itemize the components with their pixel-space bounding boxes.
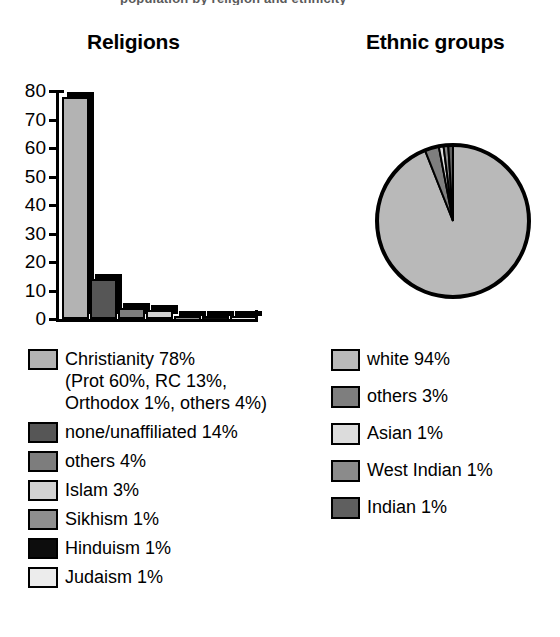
bar-others	[118, 308, 145, 319]
ethnic-legend-swatch-others	[331, 386, 360, 408]
religions-chart-title: Religions	[87, 30, 180, 54]
y-tick-60	[49, 147, 57, 150]
religions-legend-swatch-others	[28, 451, 58, 472]
religions-legend-item-sikhism[interactable]: Sikhism 1%	[28, 508, 286, 530]
pie-svg	[372, 140, 534, 302]
y-tick-label-20: 20	[0, 252, 46, 271]
ethnic-legend-item-asian[interactable]: Asian 1%	[331, 422, 541, 445]
ethnic-legend-swatch-west-indian	[331, 460, 360, 482]
bar-islam	[146, 310, 173, 319]
ethnic-legend-swatch-asian	[331, 423, 360, 445]
religions-legend-swatch-sikhism	[28, 509, 58, 530]
ethnic-legend-label-others: others 3%	[367, 385, 448, 407]
religions-legend-item-christianity[interactable]: Christianity 78% (Prot 60%, RC 13%, Orth…	[28, 348, 286, 414]
ethnic-legend-swatch-indian	[331, 497, 360, 519]
y-tick-20	[49, 261, 57, 264]
ethnic-legend-item-indian[interactable]: Indian 1%	[331, 496, 541, 519]
y-tick-label-10: 10	[0, 281, 46, 300]
ethnic-legend-item-others[interactable]: others 3%	[331, 385, 541, 408]
religions-legend-item-none-unaffiliated[interactable]: none/unaffiliated 14%	[28, 421, 286, 443]
religions-bar-chart: 01020304050607080	[0, 84, 280, 334]
y-tick-label-80: 80	[0, 81, 46, 100]
religions-legend-label-none-unaffiliated: none/unaffiliated 14%	[65, 421, 238, 443]
y-tick-label-60: 60	[0, 138, 46, 157]
religions-legend: Christianity 78% (Prot 60%, RC 13%, Orth…	[28, 348, 286, 595]
ethnic-legend-label-asian: Asian 1%	[367, 422, 443, 444]
religions-legend-item-judaism[interactable]: Judaism 1%	[28, 566, 286, 588]
y-axis-top-cap	[56, 90, 64, 93]
religions-legend-item-others[interactable]: others 4%	[28, 450, 286, 472]
y-tick-50	[49, 176, 57, 179]
y-tick-label-30: 30	[0, 224, 46, 243]
ethnic-legend-item-west-indian[interactable]: West Indian 1%	[331, 459, 541, 482]
ethnic-pie-chart	[372, 140, 534, 302]
religions-legend-label-hinduism: Hinduism 1%	[65, 537, 171, 559]
bar-christianity	[62, 97, 89, 319]
ethnic-chart-title: Ethnic groups	[366, 30, 505, 54]
bar-sikhism	[174, 316, 201, 321]
y-tick-label-70: 70	[0, 110, 46, 129]
religions-legend-swatch-islam	[28, 480, 58, 501]
ethnic-legend-swatch-white	[331, 349, 360, 371]
y-tick-40	[49, 204, 57, 207]
religions-legend-label-christianity: Christianity 78% (Prot 60%, RC 13%, Orth…	[65, 348, 267, 414]
ethnic-legend-item-white[interactable]: white 94%	[331, 348, 541, 371]
religions-legend-item-hinduism[interactable]: Hinduism 1%	[28, 537, 286, 559]
bar-hinduism	[202, 316, 229, 321]
y-tick-80	[49, 90, 57, 93]
religions-legend-label-others: others 4%	[65, 450, 146, 472]
figure-canvas: population by religion and ethnicity Rel…	[0, 0, 560, 637]
y-tick-30	[49, 233, 57, 236]
y-tick-label-50: 50	[0, 167, 46, 186]
cropped-caption-line: population by religion and ethnicity	[120, 0, 420, 5]
ethnic-legend-label-white: white 94%	[367, 348, 450, 370]
y-tick-label-40: 40	[0, 195, 46, 214]
y-tick-70	[49, 119, 57, 122]
religions-legend-label-islam: Islam 3%	[65, 479, 139, 501]
religions-legend-swatch-judaism	[28, 567, 58, 588]
bar-judaism	[230, 316, 257, 321]
ethnic-legend-label-indian: Indian 1%	[367, 496, 447, 518]
religions-legend-swatch-none-unaffiliated	[28, 422, 58, 443]
religions-legend-item-islam[interactable]: Islam 3%	[28, 479, 286, 501]
bar-none-unaffiliated	[90, 279, 117, 319]
y-tick-label-0: 0	[0, 309, 46, 328]
religions-legend-label-sikhism: Sikhism 1%	[65, 508, 159, 530]
religions-legend-swatch-christianity	[28, 349, 58, 370]
religions-legend-swatch-hinduism	[28, 538, 58, 559]
ethnic-legend-label-west-indian: West Indian 1%	[367, 459, 493, 481]
y-tick-0	[49, 318, 57, 321]
religions-legend-label-judaism: Judaism 1%	[65, 566, 163, 588]
y-tick-10	[49, 290, 57, 293]
ethnic-legend: white 94%others 3%Asian 1%West Indian 1%…	[331, 348, 541, 533]
